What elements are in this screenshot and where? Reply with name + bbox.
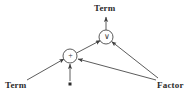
edge-factor-to-plus xyxy=(78,59,156,80)
edge-term-left-to-plus xyxy=(27,59,64,80)
edge-plus-to-or xyxy=(77,40,101,53)
diagram-canvas: ∨ + Term Term Factor xyxy=(0,0,190,98)
term-top-label: Term xyxy=(94,4,115,13)
term-left-label: Term xyxy=(5,81,26,90)
dot-marker-square xyxy=(69,83,72,86)
edge-factor-to-or xyxy=(112,42,158,79)
factor-label: Factor xyxy=(157,81,184,90)
plus-node-symbol: + xyxy=(66,52,75,60)
or-node-symbol: ∨ xyxy=(102,33,111,41)
